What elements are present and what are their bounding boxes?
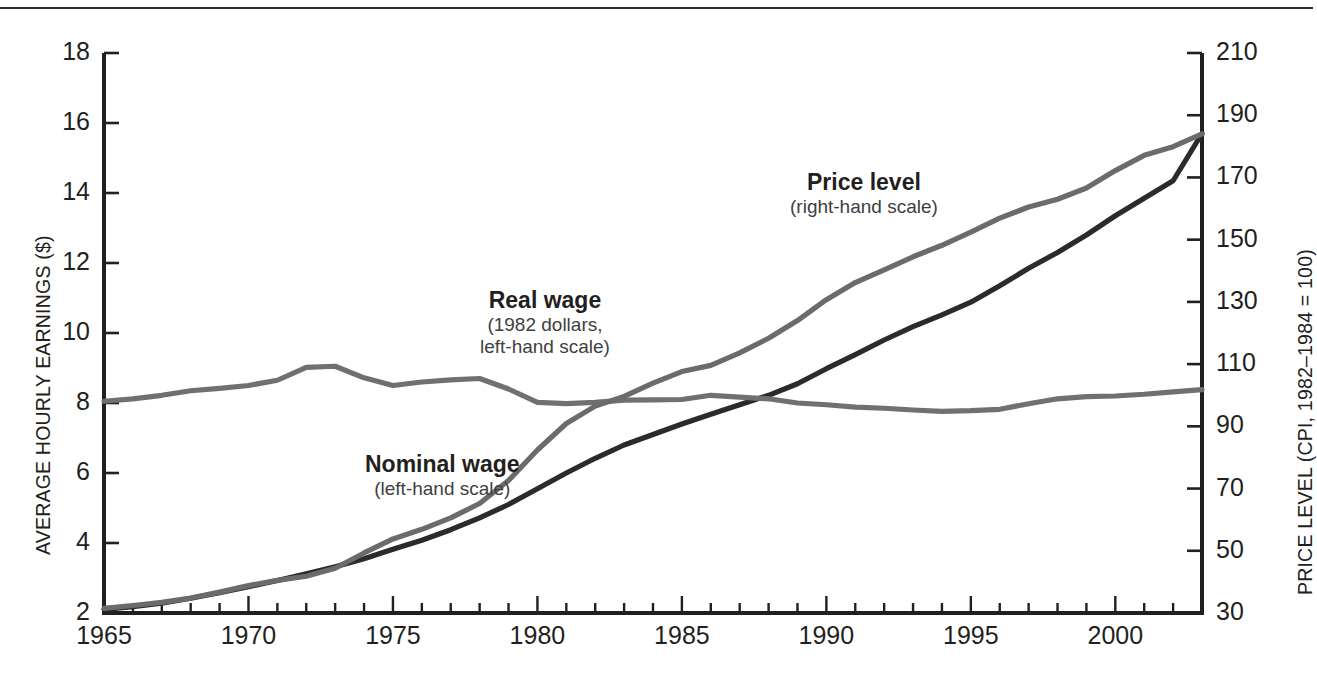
- x-axis-tick-label: 1975: [333, 623, 453, 648]
- y-axis-left-tick-label: 16: [12, 109, 90, 134]
- nominal-wage-annotation: Nominal wage (left-hand scale): [365, 452, 520, 500]
- y-axis-right-tick-label: 210: [1216, 39, 1258, 64]
- x-axis-tick-label: 1985: [622, 623, 742, 648]
- real-wage-annotation: Real wage (1982 dollars, left-hand scale…: [480, 288, 610, 359]
- y-axis-right-tick-label: 170: [1216, 163, 1258, 188]
- real-wage-annotation-title: Real wage: [480, 288, 610, 314]
- price-level-annotation: Price level (right-hand scale): [790, 170, 938, 218]
- x-axis-tick-label: 1995: [911, 623, 1031, 648]
- series-line-price-level: [104, 134, 1202, 608]
- y-axis-right-tick-label: 110: [1216, 350, 1256, 375]
- real-wage-annotation-subtitle-2: left-hand scale): [480, 336, 610, 358]
- y-axis-left-tick-label: 8: [12, 389, 90, 414]
- nominal-wage-annotation-subtitle: (left-hand scale): [365, 478, 520, 500]
- x-axis-tick-label: 1970: [188, 623, 308, 648]
- y-axis-right-tick-label: 30: [1216, 599, 1244, 624]
- y-axis-left-tick-label: 18: [12, 39, 90, 64]
- y-axis-left-tick-label: 14: [12, 179, 90, 204]
- price-level-annotation-title: Price level: [790, 170, 938, 196]
- x-axis-tick-label: 1965: [44, 623, 164, 648]
- x-axis-tick-label: 1980: [477, 623, 597, 648]
- x-axis-tick-label: 2000: [1055, 623, 1175, 648]
- nominal-wage-annotation-title: Nominal wage: [365, 452, 520, 478]
- y-axis-right-tick-label: 150: [1216, 226, 1258, 251]
- price-level-annotation-subtitle: (right-hand scale): [790, 196, 938, 218]
- x-axis-tick-label: 1990: [766, 623, 886, 648]
- y-axis-left-tick-label: 10: [12, 319, 90, 344]
- y-axis-right-tick-label: 130: [1216, 288, 1258, 313]
- y-axis-left-tick-label: 4: [12, 529, 90, 554]
- y-axis-right-tick-label: 50: [1216, 537, 1244, 562]
- y-axis-right-tick-label: 190: [1216, 101, 1258, 126]
- y-axis-left-tick-label: 12: [12, 249, 90, 274]
- y-axis-right-tick-label: 90: [1216, 412, 1244, 437]
- y-axis-right-tick-label: 70: [1216, 475, 1244, 500]
- series-line-real-wage: [104, 366, 1202, 411]
- y-axis-right-title: PRICE LEVEL (CPI, 1982–1984 = 100): [1294, 249, 1317, 595]
- real-wage-annotation-subtitle-1: (1982 dollars,: [480, 314, 610, 336]
- y-axis-left-tick-label: 6: [12, 459, 90, 484]
